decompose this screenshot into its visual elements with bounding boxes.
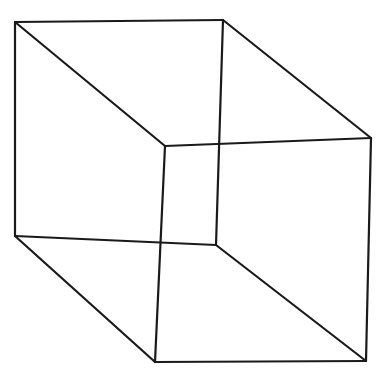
cube-edge-back-bottom-left-to-front-bottom-left [15,236,155,362]
necker-cube-drawing [0,0,390,382]
cube-edge-back-bottom-left-to-back-bottom-right [15,236,216,245]
cube-edge-front-top-left-to-front-top-right [165,138,371,146]
cube-edge-front-bottom-left-to-front-bottom-right [155,361,366,362]
cube-edge-front-top-left-to-front-bottom-left [155,146,165,362]
cube-edge-back-top-left-to-front-top-left [15,22,165,146]
cube-edge-back-top-right-to-front-top-right [223,20,371,138]
cube-edge-front-top-right-to-front-bottom-right [366,138,371,361]
cube-edge-back-bottom-right-to-front-bottom-right [216,245,366,361]
cube-edge-back-top-left-to-back-top-right [15,20,223,22]
cube-edge-back-top-right-to-back-bottom-right [216,20,223,245]
